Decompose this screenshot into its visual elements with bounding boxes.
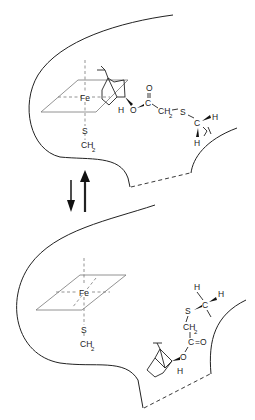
lower-methyl-h-top: H [194, 282, 200, 292]
lower-ester-o: O [180, 352, 187, 362]
upper-fe-label: Fe [80, 93, 90, 103]
upper-c-h-wedge-right [202, 115, 211, 121]
lower-c-htop-bond [197, 292, 203, 300]
upper-hashed-bond [203, 127, 211, 136]
upper-carbonyl-o: O [146, 83, 153, 93]
lower-c-hashed [207, 310, 211, 317]
lower-bicyclic-substrate [147, 343, 180, 377]
upper-methyl-h-bottom: H [194, 138, 200, 148]
lower-thioether-s: S [185, 306, 191, 316]
upper-bicyclic-substrate [97, 66, 133, 106]
lower-s-label: S [81, 325, 87, 335]
lower-ch2-sub: 2 [91, 346, 95, 352]
upper-ester-o: O [130, 105, 137, 115]
lower-c-h-wedge [209, 297, 217, 302]
upper-h-label: H [118, 105, 124, 115]
lower-methyl-h-right: H [218, 289, 224, 299]
equilibrium-arrows [67, 170, 90, 212]
lower-pocket-right-wall [210, 300, 246, 374]
upper-pocket-wall [29, 15, 173, 187]
lower-state: Fe S CH 2 H C H S CH 2 C =O O H [17, 205, 246, 408]
lower-methylene-sub: 2 [194, 329, 198, 335]
upper-o-c-wedge [137, 104, 144, 108]
upper-thioether-s: S [180, 107, 186, 117]
upper-methyl-c: C [194, 118, 200, 128]
lower-methyl-c: C [202, 300, 208, 310]
lower-carbonyl-c: C [188, 337, 194, 347]
upper-methylene-sub: 2 [169, 113, 173, 119]
lower-s-c-wedge [194, 305, 202, 310]
lower-pocket-opening [144, 374, 210, 408]
upper-methyl-h-right: H [212, 112, 218, 122]
lower-carbonyl-double: =O [195, 337, 207, 347]
upper-c-h-wedge-down [196, 128, 199, 137]
upper-s-label: S [82, 126, 88, 136]
upper-ch2-sub: 2 [92, 147, 96, 153]
lower-fe-label: Fe [79, 288, 89, 298]
upper-pocket-opening [131, 173, 190, 187]
upper-state: Fe S CH 2 H O O C CH 2 S C H H [29, 15, 237, 187]
lower-h-label: H [177, 366, 183, 376]
upper-carbonyl-c: C [145, 98, 151, 108]
upper-ch2-s-bond [172, 109, 178, 110]
enzyme-binding-diagram: Fe S CH 2 H O O C CH 2 S C H H [0, 0, 255, 420]
